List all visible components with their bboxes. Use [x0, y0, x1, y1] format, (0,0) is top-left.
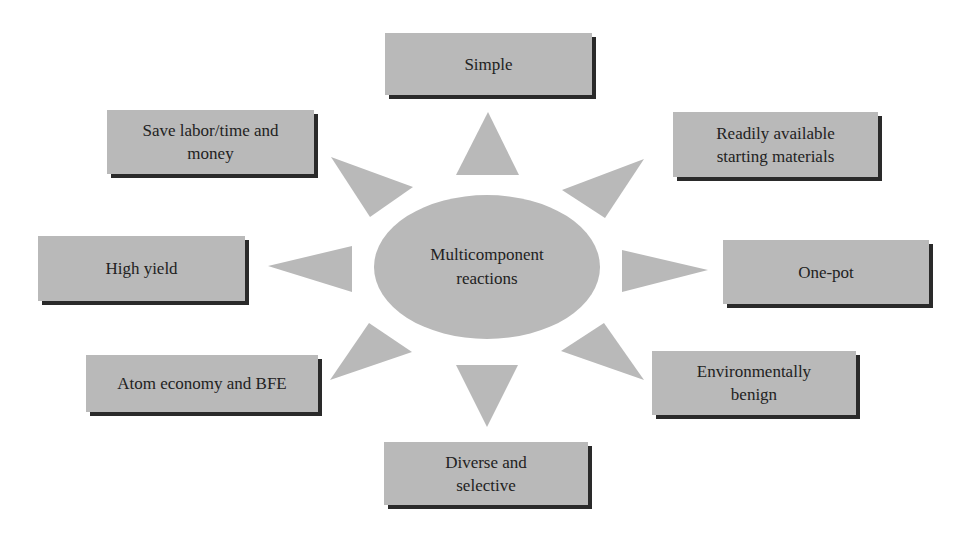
- node-readily-available: Readily available starting materials: [673, 112, 878, 177]
- node-save-labor: Save labor/time and money: [107, 110, 314, 174]
- arrow-top-icon: [456, 112, 519, 175]
- node-label: One-pot: [798, 261, 854, 284]
- node-label: Simple: [464, 53, 512, 76]
- node-label: High yield: [105, 257, 177, 280]
- node-diverse-selective: Diverse and selective: [384, 442, 588, 505]
- node-simple: Simple: [385, 33, 592, 95]
- center-label: Multicomponent reactions: [374, 235, 600, 299]
- node-label-line1: Environmentally: [697, 360, 811, 383]
- node-label: Atom economy and BFE: [117, 372, 287, 395]
- arrow-bottom-icon: [456, 365, 518, 427]
- center-label-line2: reactions: [430, 267, 543, 291]
- node-label-line1: Save labor/time and: [143, 119, 279, 142]
- node-one-pot: One-pot: [723, 240, 929, 304]
- node-label-line2: benign: [697, 383, 811, 406]
- node-label-line2: money: [143, 142, 279, 165]
- arrow-bottom-right-icon: [561, 323, 644, 380]
- arrow-top-right-icon: [562, 159, 644, 218]
- node-label-line2: selective: [445, 474, 527, 497]
- node-atom-economy: Atom economy and BFE: [86, 355, 318, 412]
- node-label-line2: starting materials: [716, 145, 834, 168]
- node-high-yield: High yield: [38, 236, 245, 301]
- arrow-bottom-left-icon: [330, 323, 412, 380]
- node-environmentally-benign: Environmentally benign: [652, 351, 856, 415]
- arrow-top-left-icon: [331, 157, 413, 217]
- node-label-line1: Diverse and: [445, 451, 527, 474]
- node-label-line1: Readily available: [716, 122, 834, 145]
- center-label-line1: Multicomponent: [430, 243, 543, 267]
- mcr-diagram: Multicomponent reactions Simple Readily …: [0, 0, 965, 540]
- arrow-left-icon: [268, 246, 352, 292]
- arrow-right-icon: [622, 250, 708, 292]
